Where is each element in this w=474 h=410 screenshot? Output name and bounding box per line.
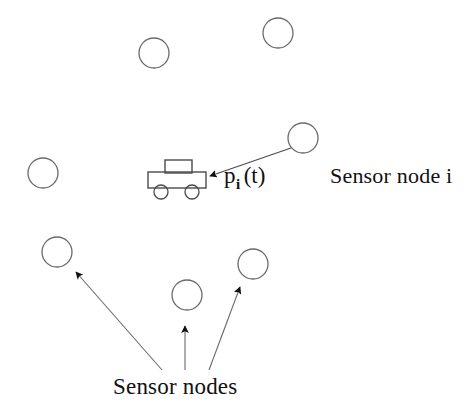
mobile-robot-icon <box>148 160 206 199</box>
robot-position-label: pi(t) <box>224 164 265 192</box>
position-argument: (t) <box>242 163 266 188</box>
position-subscript: i <box>236 176 242 192</box>
sensor-node-circle <box>238 249 268 279</box>
sensor-nodes-group <box>28 18 318 310</box>
sensor-network-figure: pi(t) Sensor node i Sensor nodes <box>0 0 474 410</box>
robot-wheel-front <box>185 185 199 199</box>
position-symbol: p <box>224 163 236 188</box>
sensor-nodes-label: Sensor nodes <box>113 375 237 398</box>
sensor-node-circle <box>28 158 58 188</box>
arrow-caption-to-node-right <box>209 287 240 370</box>
sensor-node-circle-i <box>288 123 318 153</box>
sensor-node-i-label: Sensor node i <box>330 165 452 187</box>
figure-canvas <box>0 0 474 410</box>
robot-wheel-rear <box>154 185 168 199</box>
robot-body <box>148 172 206 188</box>
robot-turret <box>165 160 192 173</box>
arrow-caption-to-node-left <box>76 272 162 370</box>
sensor-node-circle <box>172 280 202 310</box>
sensor-node-circle <box>42 237 72 267</box>
sensor-node-circle <box>139 38 169 68</box>
sensor-node-circle <box>263 18 293 48</box>
